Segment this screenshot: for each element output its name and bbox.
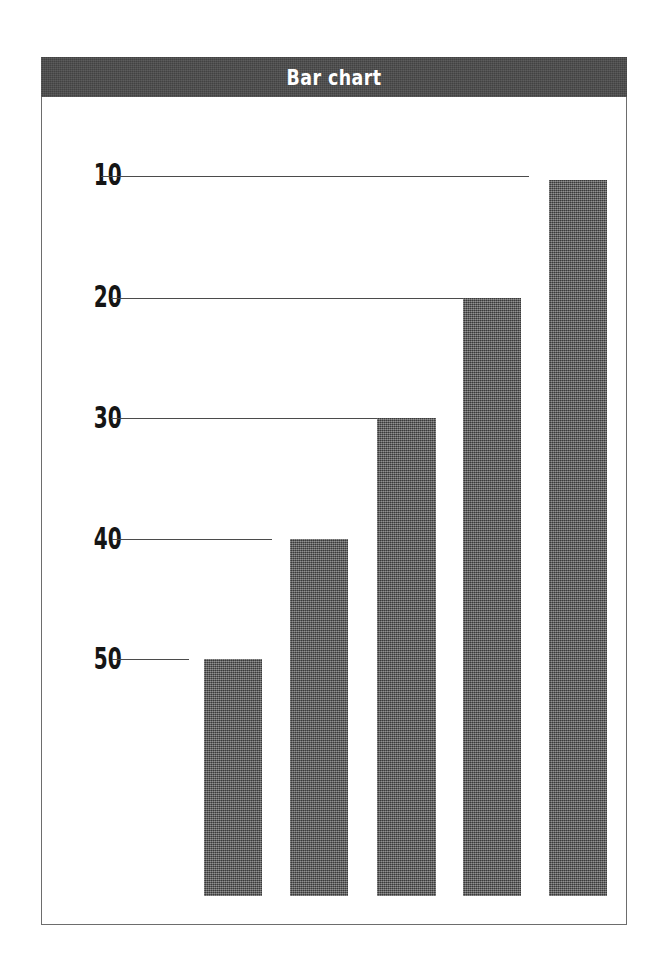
bar-5: [549, 180, 607, 896]
bar-4: [463, 298, 521, 896]
y-tick-label-40: 20: [94, 281, 122, 312]
y-tick-label-50: 10: [94, 159, 122, 190]
bar-1: [204, 659, 262, 896]
gridline-40: [111, 298, 463, 299]
chart-page: Bar chart 10 20 30 40 50: [0, 0, 662, 975]
gridline-10: [112, 659, 189, 660]
gridline-50: [101, 176, 529, 177]
gridline-20: [112, 539, 272, 540]
page-title: Bar chart: [286, 65, 381, 90]
plot-area: 10 20 30 40 50: [41, 97, 627, 925]
bar-3: [377, 418, 436, 896]
gridline-30: [111, 418, 377, 419]
chart-title-bar: Bar chart: [41, 57, 627, 97]
bar-2: [290, 539, 348, 896]
